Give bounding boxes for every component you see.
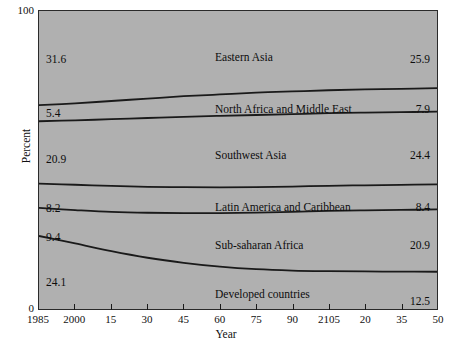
end-value-latin-america-caribbean: 8.4: [416, 201, 430, 214]
x-axis-tick-label-11: 50: [416, 313, 452, 325]
x-axis-tick-4: [183, 304, 184, 310]
x-axis-tick-7: [293, 304, 294, 310]
band-label-north-africa-middle-east: North Africa and Middle East: [215, 103, 352, 116]
start-value-north-africa-middle-east: 5.4: [46, 107, 60, 120]
end-value-eastern-asia: 25.9: [410, 53, 430, 66]
x-axis-title: Year: [0, 328, 452, 340]
x-axis-tick-8: [329, 304, 330, 310]
x-axis-tick-3: [147, 304, 148, 310]
band-boundary-southwest-asia: [39, 184, 437, 188]
band-label-developed-countries: Developed countries: [215, 288, 310, 301]
plot-area: Eastern Asia North Africa and Middle Eas…: [38, 10, 438, 310]
band-label-eastern-asia: Eastern Asia: [215, 51, 273, 64]
start-value-sub-saharan-africa: 9.4: [46, 231, 60, 244]
y-axis-tick-label-top: 100: [2, 4, 34, 16]
x-axis-tick-10: [402, 304, 403, 310]
band-label-southwest-asia: Southwest Asia: [215, 149, 286, 162]
stacked-area-chart: 100 0 Percent Eastern Asia North Africa …: [0, 0, 452, 343]
end-value-developed-countries: 12.5: [410, 295, 430, 308]
start-value-latin-america-caribbean: 8.2: [46, 202, 60, 215]
x-axis-tick-2: [111, 304, 112, 310]
start-value-eastern-asia: 31.6: [46, 53, 66, 66]
end-value-north-africa-middle-east: 7.9: [416, 103, 430, 116]
end-value-southwest-asia: 24.4: [410, 149, 430, 162]
end-value-sub-saharan-africa: 20.9: [410, 239, 430, 252]
x-axis-tick-1: [74, 304, 75, 310]
band-label-latin-america-caribbean: Latin America and Caribbean: [215, 201, 351, 214]
band-label-sub-saharan-africa: Sub-saharan Africa: [215, 239, 303, 252]
start-value-southwest-asia: 20.9: [46, 153, 66, 166]
x-axis-tick-9: [365, 304, 366, 310]
x-axis-tick-6: [256, 304, 257, 310]
start-value-developed-countries: 24.1: [46, 276, 66, 289]
x-axis-tick-5: [220, 304, 221, 310]
y-axis-title: Percent: [20, 106, 32, 186]
